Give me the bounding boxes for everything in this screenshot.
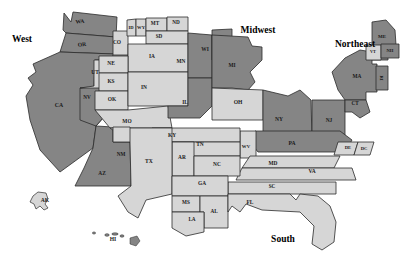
- state-label-fl: FL: [247, 199, 254, 205]
- state-label-ms: MS: [182, 199, 190, 205]
- state-label-oh: OH: [234, 99, 243, 105]
- state-label-ky: KY: [168, 132, 176, 138]
- state-label-ia: IA: [149, 53, 155, 59]
- state-label-tx: TX: [145, 158, 153, 164]
- state-shape-mn[interactable]: [188, 33, 212, 78]
- hawaii-island-3: [112, 233, 118, 235]
- region-label-midwest: Midwest: [241, 25, 277, 35]
- us-regions-map: WAORCANVUTCOIDWYMTNDSDNEKSOKIAINMOMNWIIL…: [0, 0, 414, 265]
- state-label-al: AL: [210, 208, 218, 214]
- state-label-nj: NJ: [326, 117, 333, 123]
- state-shape-nm[interactable]: [113, 127, 130, 142]
- state-label-wi: WI: [201, 46, 209, 52]
- state-label-ks: KS: [107, 78, 114, 84]
- state-label-ok: OK: [108, 96, 117, 102]
- state-label-id: ID: [128, 25, 134, 30]
- hawaii-island-4: [120, 235, 124, 237]
- state-label-ut: UT: [91, 69, 99, 75]
- state-label-md: MD: [269, 160, 278, 166]
- state-label-la: LA: [188, 216, 195, 222]
- state-label-nh: NH: [387, 48, 394, 53]
- region-label-west: West: [12, 34, 33, 44]
- state-label-mi: MI: [228, 62, 235, 68]
- state-label-in: IN: [141, 84, 147, 90]
- state-shape-md[interactable]: [242, 156, 340, 168]
- hawaii-island-1: [92, 232, 95, 234]
- state-label-nd: ND: [172, 19, 180, 25]
- state-label-ny: NY: [275, 116, 283, 122]
- state-label-nm: NM: [117, 151, 126, 157]
- state-label-nv: NV: [83, 94, 91, 100]
- state-label-ca: CA: [55, 102, 64, 108]
- hawaii-island-2: [105, 234, 109, 237]
- state-label-or: OR: [77, 41, 87, 48]
- state-shape-or[interactable]: [60, 33, 116, 54]
- region-label-south: South: [271, 234, 295, 244]
- state-label-mt: MT: [151, 20, 160, 26]
- state-label-tn: TN: [196, 141, 204, 147]
- us-map-svg: WAORCANVUTCOIDWYMTNDSDNEKSOKIAINMOMNWIIL…: [0, 0, 414, 265]
- state-label-wv: WV: [242, 144, 251, 149]
- state-label-dc: DC: [361, 146, 368, 151]
- state-label-az: AZ: [98, 170, 106, 176]
- state-label-il: IL: [182, 99, 188, 105]
- state-shape-in[interactable]: [128, 72, 188, 106]
- state-label-nc: NC: [213, 161, 221, 167]
- state-label-pa: PA: [288, 140, 295, 146]
- state-label-wa: WA: [75, 18, 85, 25]
- state-label-sc: SC: [269, 183, 276, 189]
- state-label-va: VA: [308, 168, 315, 174]
- state-label-ma: MA: [353, 73, 362, 79]
- region-label-northeast: Northeast: [335, 39, 376, 49]
- state-label-ga: GA: [198, 180, 206, 186]
- state-label-de: DE: [345, 145, 351, 150]
- inset-label-hi: HI: [110, 236, 117, 242]
- state-shape-sc[interactable]: [228, 182, 336, 194]
- state-label-me: ME: [378, 34, 387, 39]
- state-label-ri: RI: [379, 75, 384, 80]
- state-label-ct: CT: [351, 100, 359, 106]
- state-shape-sd[interactable]: [146, 31, 188, 44]
- state-shape-va[interactable]: [236, 168, 356, 180]
- state-label-sd: SD: [156, 33, 163, 39]
- inset-label-ak: AK: [41, 197, 50, 203]
- state-label-mn: MN: [177, 58, 186, 64]
- state-label-ne: NE: [107, 60, 115, 66]
- state-label-ar: AR: [178, 154, 186, 160]
- state-label-wy: WY: [137, 25, 146, 30]
- state-label-co: CO: [113, 39, 121, 45]
- state-label-vt: VT: [370, 49, 376, 54]
- state-label-mo: MO: [122, 118, 131, 124]
